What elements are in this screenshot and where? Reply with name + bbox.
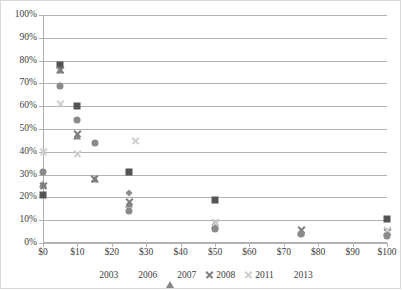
gridline [43,129,387,130]
data-point-2011 [132,136,140,144]
y-axis-tick-label: 0% [3,238,37,248]
gridline [43,38,387,39]
data-point-2008 [91,175,99,183]
y-axis-tick-label: 50% [3,124,37,134]
data-point-2013 [74,116,81,123]
legend-marker-icon [166,271,175,280]
y-axis-tick [39,220,43,221]
chart-legend: 200320062007200820112013 [1,270,400,280]
legend-label: 2007 [177,270,196,280]
y-axis-tick-label: 10% [3,215,37,225]
gridline [43,106,387,107]
y-axis-tick-label: 70% [3,79,37,89]
data-point-2008 [39,182,47,190]
legend-item-2007: 2007 [166,270,196,280]
legend-marker-icon [88,271,97,280]
legend-item-2003: 2003 [88,270,118,280]
legend-item-2008: 2008 [205,270,235,280]
y-axis-tick [39,129,43,130]
legend-marker-icon [244,271,253,280]
data-point-2013 [384,233,391,240]
y-axis-tick-label: 20% [3,193,37,203]
data-point-2008 [125,198,133,206]
legend-item-2006: 2006 [127,270,157,280]
y-axis-tick-label: 80% [3,56,37,66]
y-axis-tick-label: 100% [3,10,37,20]
gridline [43,152,387,153]
data-point-2006 [40,192,47,199]
gridline [43,15,387,16]
legend-label: 2003 [99,270,118,280]
data-point-2011 [73,150,81,158]
legend-label: 2008 [216,270,235,280]
y-axis-tick [39,61,43,62]
data-point-2013 [212,226,219,233]
data-point-2013 [57,82,64,89]
legend-marker-icon [127,271,136,280]
legend-marker-icon [205,271,214,280]
data-point-2008 [73,130,81,138]
data-point-2013 [126,208,133,215]
data-point-2006 [212,196,219,203]
y-axis-tick [39,15,43,16]
scatter-chart: 0%10%20%30%40%50%60%70%80%90%100% $0$10$… [0,0,401,289]
legend-item-2013: 2013 [283,270,313,280]
gridline [43,61,387,62]
x-axis-tick-label: $100 [367,248,402,258]
y-axis-tick-label: 60% [3,101,37,111]
data-point-2013 [91,139,98,146]
legend-item-2011: 2011 [244,270,274,280]
data-point-2011 [39,148,47,156]
legend-label: 2011 [255,270,274,280]
y-axis-tick [39,38,43,39]
data-point-2013 [298,230,305,237]
data-point-2006 [384,216,391,223]
y-axis-tick [39,83,43,84]
data-point-2013 [40,169,47,176]
data-point-2003 [125,189,132,196]
y-axis-tick-label: 90% [3,33,37,43]
data-point-2006 [74,103,81,110]
y-axis-tick-label: 30% [3,170,37,180]
legend-marker-icon [283,271,292,280]
y-axis-line [43,15,44,243]
legend-label: 2006 [138,270,157,280]
data-point-2006 [126,169,133,176]
y-axis-tick-label: 40% [3,147,37,157]
gridline [43,83,387,84]
y-axis-tick [39,106,43,107]
data-point-2008 [56,66,64,74]
plot-area: 0%10%20%30%40%50%60%70%80%90%100% $0$10$… [43,15,387,243]
legend-label: 2013 [294,270,313,280]
data-point-2011 [56,100,64,108]
